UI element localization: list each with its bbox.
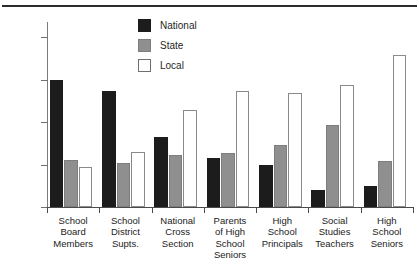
- bar-group: [204, 22, 256, 207]
- bar-local: [183, 110, 197, 207]
- legend-swatch-state-icon: [138, 39, 151, 52]
- x-axis-tick-mark: [152, 207, 153, 213]
- bar-group: [308, 22, 360, 207]
- plot-area: [47, 22, 413, 207]
- bar-national: [311, 190, 325, 207]
- x-axis-tick-mark: [413, 207, 414, 213]
- legend-swatch-national-icon: [138, 19, 151, 32]
- legend-swatch-local-icon: [138, 59, 151, 72]
- bar-national: [364, 186, 378, 207]
- legend-item-state: State: [138, 37, 197, 54]
- bar-local: [236, 91, 250, 207]
- x-axis-tick-mark: [361, 207, 362, 213]
- bar-chart-figure: 0%20%40%60%80% School Board MembersSchoo…: [0, 0, 419, 275]
- legend-label-national: National: [160, 20, 197, 31]
- bar-state: [64, 160, 78, 207]
- bar-local: [393, 55, 407, 207]
- bar-national: [154, 137, 168, 207]
- x-axis-tick-mark: [256, 207, 257, 213]
- x-axis-tick-mark: [99, 207, 100, 213]
- legend-item-local: Local: [138, 57, 197, 74]
- bar-group: [256, 22, 308, 207]
- bar-state: [169, 155, 183, 207]
- bar-local: [288, 93, 302, 207]
- bar-state: [326, 125, 340, 207]
- bar-national: [50, 80, 64, 208]
- bar-national: [259, 165, 273, 208]
- bar-state: [378, 161, 392, 207]
- x-axis-category-label: High School Principals: [252, 215, 312, 249]
- chart-legend: National State Local: [138, 17, 197, 77]
- bar-group: [361, 22, 413, 207]
- bar-local: [131, 152, 145, 207]
- bar-state: [221, 153, 235, 207]
- bar-group: [47, 22, 99, 207]
- x-axis-category-label: High School Seniors: [357, 215, 417, 249]
- bar-national: [102, 91, 116, 207]
- x-axis-category-label: School District Supts.: [95, 215, 155, 249]
- bar-state: [274, 145, 288, 207]
- x-axis-tick-mark: [47, 207, 48, 213]
- x-axis-line: [47, 207, 413, 208]
- x-axis-category-label: Parents of High School Seniors: [200, 215, 260, 261]
- legend-label-local: Local: [160, 60, 184, 71]
- bar-local: [79, 167, 93, 207]
- x-axis-tick-mark: [308, 207, 309, 213]
- x-axis-category-label: School Board Members: [43, 215, 103, 249]
- bar-national: [207, 158, 221, 207]
- x-axis-tick-mark: [204, 207, 205, 213]
- x-axis-category-label: Social Studies Teachers: [304, 215, 364, 249]
- top-divider-rule: [2, 5, 417, 7]
- bar-local: [340, 85, 354, 207]
- bar-state: [117, 163, 131, 207]
- legend-item-national: National: [138, 17, 197, 34]
- x-axis-category-label: National Cross Section: [148, 215, 208, 249]
- legend-label-state: State: [160, 40, 183, 51]
